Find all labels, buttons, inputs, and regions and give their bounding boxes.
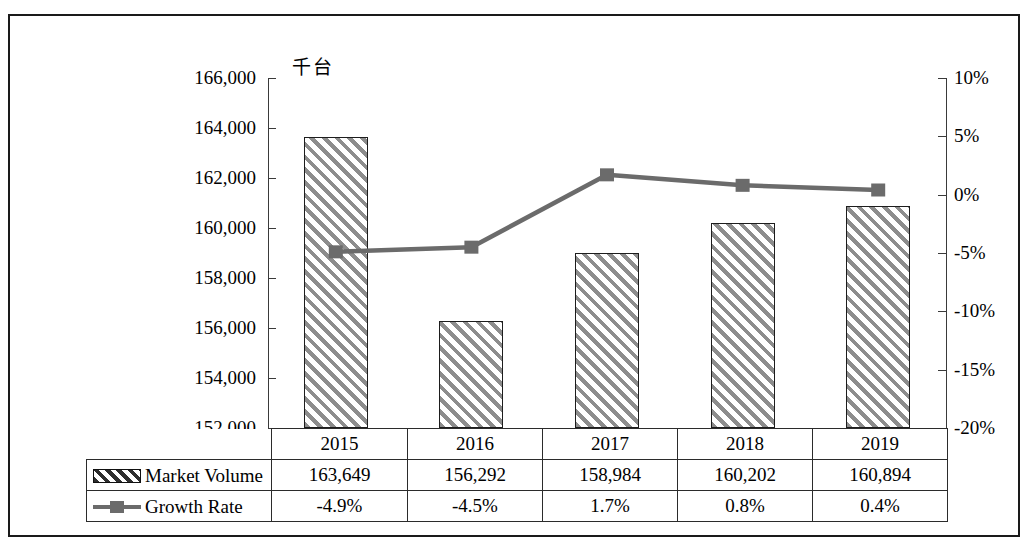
table-cell: 160,894 [813, 460, 948, 491]
table-cell: 158,984 [543, 460, 678, 491]
right-axis-tick-label: -5% [954, 243, 1028, 262]
table-cell: 0.8% [678, 491, 813, 522]
table-cell: 0.4% [813, 491, 948, 522]
table-cell: 156,292 [408, 460, 543, 491]
line-marker-icon [93, 500, 141, 514]
growth-rate-markers [329, 168, 885, 258]
legend-label: Growth Rate [145, 496, 243, 517]
table-row: 2018 [678, 429, 813, 460]
table-row: 2015 [272, 429, 408, 460]
growth-rate-polyline [336, 175, 878, 252]
data-table: 2015 2016 2017 2018 2019 Market Volume 1… [86, 428, 948, 522]
right-axis-tick-label: 0% [954, 185, 1028, 204]
left-axis-tick-label: 164,000 [106, 118, 256, 137]
table-cell: -4.5% [408, 491, 543, 522]
data-point-marker [329, 245, 343, 258]
plot-area [268, 78, 946, 428]
table-cell: -4.9% [272, 491, 408, 522]
data-point-marker [464, 241, 478, 254]
left-axis-tick-label: 162,000 [106, 168, 256, 187]
table-cell: 160,202 [678, 460, 813, 491]
legend-market-volume: Market Volume [87, 460, 272, 491]
table-cell: 163,649 [272, 460, 408, 491]
right-axis-tick-label: 5% [954, 126, 1028, 145]
right-axis-tick-label: -10% [954, 301, 1028, 320]
table-header-row: 2015 2016 2017 2018 2019 [87, 429, 948, 460]
data-point-marker [736, 179, 750, 192]
table-row: 2017 [543, 429, 678, 460]
left-axis-tick-label: 160,000 [106, 218, 256, 237]
table-cell: 1.7% [543, 491, 678, 522]
legend-growth-rate: Growth Rate [87, 491, 272, 522]
data-table-wrapper: 2015 2016 2017 2018 2019 Market Volume 1… [86, 428, 947, 522]
left-axis-tick-label: 166,000 [106, 68, 256, 87]
line-series-growth-rate [268, 78, 946, 428]
table-row-market-volume: Market Volume 163,649 156,292 158,984 16… [87, 460, 948, 491]
right-axis-line [946, 78, 947, 429]
data-point-marker [871, 184, 885, 197]
legend-label: Market Volume [145, 465, 263, 486]
right-axis-tick-label: -15% [954, 360, 1028, 379]
left-axis-tick-label: 154,000 [106, 368, 256, 387]
table-row: 2019 [813, 429, 948, 460]
table-row-growth-rate: Growth Rate -4.9% -4.5% 1.7% 0.8% 0.4% [87, 491, 948, 522]
table-row: 2016 [408, 429, 543, 460]
hatched-rectangle-icon [93, 469, 141, 483]
right-axis-tick-label: -20% [954, 418, 1028, 437]
unit-label: 千台 [292, 52, 334, 79]
right-axis-tick-label: 10% [954, 68, 1028, 87]
left-axis-tick-label: 156,000 [106, 318, 256, 337]
data-point-marker [600, 168, 614, 181]
chart-frame: 千台 152,000154,000156,000158,000160,00016… [8, 14, 1020, 537]
table-corner-cell [87, 429, 272, 460]
left-axis-tick-label: 158,000 [106, 268, 256, 287]
